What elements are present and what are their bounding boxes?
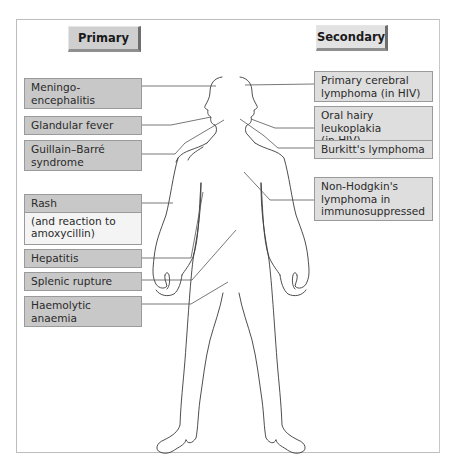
label-text-line3: immunosuppressed bbox=[321, 205, 426, 218]
label-haemolytic-anaemia: Haemolytic anaemia bbox=[24, 296, 142, 327]
primary-header: Primary bbox=[68, 26, 141, 52]
label-text: Glandular fever bbox=[31, 119, 113, 131]
left-face-profile bbox=[205, 77, 222, 143]
right-hand bbox=[280, 273, 306, 296]
label-text-line1: (and reaction to bbox=[31, 215, 135, 228]
leader-cerebral bbox=[245, 84, 314, 85]
label-non-hodgkins-lymphoma: Non-Hodgkin's lymphoma in immunosuppress… bbox=[314, 177, 433, 221]
leader-glandular bbox=[142, 117, 211, 125]
leader-burkitt bbox=[240, 119, 314, 148]
label-text: Burkitt's lymphoma bbox=[321, 143, 425, 155]
right-torso-leg bbox=[261, 183, 305, 453]
left-torso-leg bbox=[157, 183, 201, 453]
label-primary-cerebral-lymphoma: Primary cerebral lymphoma (in HIV) bbox=[314, 71, 433, 102]
label-text-line1: Guillain–Barré bbox=[31, 143, 135, 156]
left-inner-leg bbox=[186, 293, 223, 443]
label-text-line2: lymphoma (in HIV) bbox=[321, 87, 426, 100]
label-rash: Rash (and reaction to amoxycillin) bbox=[24, 194, 142, 245]
label-text: Hepatitis bbox=[31, 252, 78, 264]
label-meningo-encephalitis: Meningo-encephalitis bbox=[24, 78, 142, 109]
left-hand bbox=[156, 273, 182, 296]
label-hepatitis: Hepatitis bbox=[24, 249, 142, 268]
secondary-header: Secondary bbox=[316, 25, 388, 51]
right-inner-leg bbox=[239, 293, 276, 443]
label-text-line2: lymphoma in bbox=[321, 193, 426, 206]
label-guillain-barre: Guillain–Barré syndrome bbox=[24, 140, 142, 171]
label-text: Meningo-encephalitis bbox=[31, 81, 95, 106]
label-rash-subtext: (and reaction to amoxycillin) bbox=[25, 213, 141, 244]
label-text-line2: amoxycillin) bbox=[31, 227, 135, 240]
leader-nhl bbox=[244, 172, 314, 200]
label-text-line2: syndrome bbox=[31, 156, 135, 169]
leader-oral bbox=[251, 119, 314, 128]
label-splenic-rupture: Splenic rupture bbox=[24, 272, 142, 291]
left-arm-inner bbox=[176, 158, 201, 275]
leader-hepatitis bbox=[142, 192, 203, 258]
leader-haemolytic bbox=[142, 282, 228, 304]
label-text-line1: Primary cerebral bbox=[321, 74, 426, 87]
label-rash-title: Rash bbox=[25, 195, 141, 213]
label-burkitts-lymphoma: Burkitt's lymphoma bbox=[314, 140, 433, 159]
leader-splenic bbox=[142, 230, 236, 280]
label-text-line1: Oral hairy leukoplakia bbox=[321, 109, 426, 134]
right-face-profile bbox=[240, 77, 257, 143]
label-text: Splenic rupture bbox=[31, 275, 112, 287]
label-glandular-fever: Glandular fever bbox=[24, 116, 142, 135]
label-text: Haemolytic anaemia bbox=[31, 299, 91, 324]
label-text-line1: Non-Hodgkin's bbox=[321, 180, 426, 193]
